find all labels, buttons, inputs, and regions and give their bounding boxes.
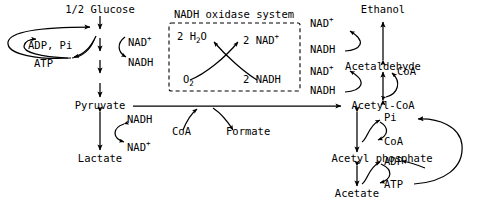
label-nadh-ethanol: NADH xyxy=(310,44,335,55)
to-pi-curve xyxy=(362,120,380,142)
glycolysis-to-atp-curve-b xyxy=(72,40,94,58)
nad-to-nadh-glycolysis-curve xyxy=(119,37,126,57)
nad-plus-superscript: + xyxy=(147,34,152,43)
label-ethanol: Ethanol xyxy=(361,4,405,15)
label-atp-left: ATP xyxy=(34,58,53,69)
label-coa-pyruvate: CoA xyxy=(172,126,191,137)
label-nadh-acetaldehyde: NADH xyxy=(310,85,335,96)
label-nad-glycolysis: NAD+ xyxy=(128,33,151,48)
label-acetyl-phosphate: Acetyl phosphate xyxy=(331,153,432,164)
label-nadh-oxidase-title: NADH oxidase system xyxy=(174,9,294,20)
label-adp-right: ADP xyxy=(384,156,403,167)
label-formate: Formate xyxy=(226,126,270,137)
coa-acetaldehyde-curve xyxy=(386,73,398,97)
nadh-to-nad-acetaldehyde-curve xyxy=(345,71,361,92)
label-water: 2 H2O xyxy=(177,31,207,46)
label-nad-lactate: NAD+ xyxy=(127,138,150,153)
lactate-cofactor-curve xyxy=(115,124,124,142)
label-nad-ethanol: NAD+ xyxy=(310,14,333,29)
label-acetate: Acetate xyxy=(335,188,379,199)
pathway-diagram: 1/2 Glucose ADP, Pi ATP NAD+ NADH Pyruva… xyxy=(0,0,477,210)
label-nad-plus-box: 2 NAD+ xyxy=(243,31,279,46)
to-adp-curve xyxy=(362,162,380,184)
nadh-to-nad-ethanol-curve xyxy=(345,31,360,51)
label-coa-acetaldehyde: CoA xyxy=(397,66,416,77)
label-lactate: Lactate xyxy=(78,153,122,164)
label-pyruvate: Pyruvate xyxy=(75,100,126,111)
label-glucose: 1/2 Glucose xyxy=(65,4,135,15)
label-nad-acetaldehyde: NAD+ xyxy=(310,62,333,77)
label-pi-right: Pi xyxy=(384,112,397,123)
label-nadh-lactate: NADH xyxy=(127,114,152,125)
o2-to-nadplus-curve xyxy=(190,42,238,80)
glycolysis-to-atp-curve-a xyxy=(74,36,96,57)
label-nadh-glycolysis: NADH xyxy=(128,57,153,68)
label-nadh-box: 2 NADH xyxy=(243,74,281,85)
label-coa-right: CoA xyxy=(384,136,403,147)
label-adp-pi: ADP, Pi xyxy=(28,40,72,51)
label-atp-right: ATP xyxy=(384,179,403,190)
label-oxygen: O2 xyxy=(183,74,194,89)
label-acetyl-coa: Acetyl-CoA xyxy=(351,100,414,111)
